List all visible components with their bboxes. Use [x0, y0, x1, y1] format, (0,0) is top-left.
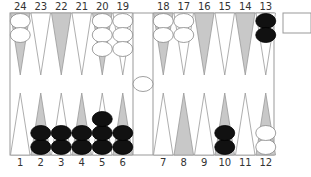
bottom-point-labels: 123456789101112 — [17, 157, 272, 168]
bar[interactable] — [133, 77, 153, 92]
point-label-13: 13 — [259, 1, 272, 12]
point-label-17: 17 — [177, 1, 190, 12]
point-label-11: 11 — [239, 157, 252, 168]
white-checker[interactable] — [113, 42, 133, 57]
point-label-22: 22 — [55, 1, 68, 12]
white-checker[interactable] — [10, 28, 30, 43]
point-label-7: 7 — [160, 157, 166, 168]
white-checker[interactable] — [113, 28, 133, 43]
point-label-5: 5 — [99, 157, 105, 168]
point-label-8: 8 — [181, 157, 187, 168]
point-label-18: 18 — [157, 1, 170, 12]
point-label-2: 2 — [38, 157, 44, 168]
point-label-3: 3 — [58, 157, 64, 168]
black-checker[interactable] — [215, 140, 235, 155]
point-label-15: 15 — [218, 1, 231, 12]
point-label-16: 16 — [198, 1, 211, 12]
backgammon-board: 242322212019181716151413 123456789101112 — [0, 0, 311, 177]
point-label-14: 14 — [239, 1, 252, 12]
black-checker[interactable] — [92, 126, 112, 141]
white-checker-on-bar[interactable] — [133, 77, 153, 92]
white-checker[interactable] — [174, 28, 194, 43]
white-checker[interactable] — [174, 14, 194, 29]
point-label-9: 9 — [201, 157, 207, 168]
point-label-21: 21 — [75, 1, 88, 12]
black-checker[interactable] — [256, 28, 276, 43]
black-checker[interactable] — [215, 126, 235, 141]
black-checker[interactable] — [92, 112, 112, 127]
black-checker[interactable] — [31, 126, 51, 141]
top-point-labels: 242322212019181716151413 — [14, 1, 272, 12]
point-label-4: 4 — [79, 157, 85, 168]
black-checker[interactable] — [51, 140, 71, 155]
black-checker[interactable] — [51, 126, 71, 141]
black-checker[interactable] — [113, 140, 133, 155]
point-label-6: 6 — [120, 157, 126, 168]
white-checker[interactable] — [153, 14, 173, 29]
black-checker[interactable] — [256, 14, 276, 29]
white-checker[interactable] — [92, 42, 112, 57]
point-label-20: 20 — [96, 1, 109, 12]
point-label-19: 19 — [116, 1, 129, 12]
black-checker[interactable] — [92, 140, 112, 155]
point-label-23: 23 — [34, 1, 47, 12]
white-checker[interactable] — [256, 140, 276, 155]
black-checker[interactable] — [72, 140, 92, 155]
white-checker[interactable] — [153, 28, 173, 43]
doubling-cube-box[interactable] — [283, 13, 311, 33]
point-label-1: 1 — [17, 157, 23, 168]
white-checker[interactable] — [92, 28, 112, 43]
black-checker[interactable] — [72, 126, 92, 141]
white-checker[interactable] — [92, 14, 112, 29]
black-checker[interactable] — [113, 126, 133, 141]
white-checker[interactable] — [113, 14, 133, 29]
point-label-24: 24 — [14, 1, 27, 12]
point-label-10: 10 — [218, 157, 231, 168]
point-label-12: 12 — [259, 157, 272, 168]
white-checker[interactable] — [10, 14, 30, 29]
black-checker[interactable] — [31, 140, 51, 155]
white-checker[interactable] — [256, 126, 276, 141]
